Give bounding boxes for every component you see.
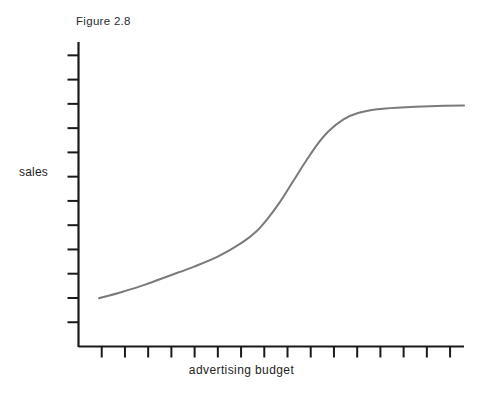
- figure-container: Figure 2.8 sales advertising budget: [0, 0, 483, 403]
- sales-response-curve: [99, 105, 464, 298]
- x-axis-tick-marks: [102, 347, 450, 358]
- y-axis-tick-marks: [68, 55, 79, 322]
- y-axis-group: [68, 42, 79, 347]
- x-axis-group: [79, 347, 465, 358]
- plot-area: [0, 0, 483, 403]
